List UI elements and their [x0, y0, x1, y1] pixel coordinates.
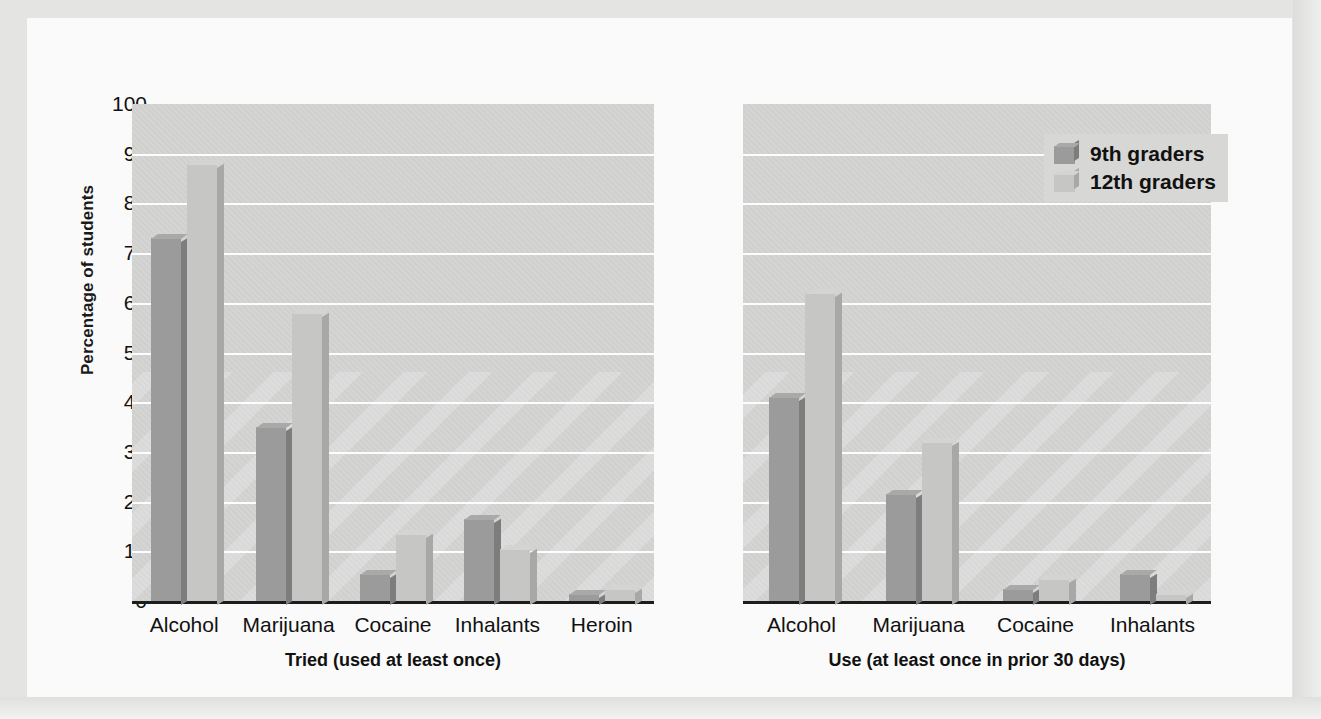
- bar-cocaine-12th: [1039, 579, 1069, 601]
- x-tick-alcohol: Alcohol: [743, 613, 860, 637]
- x-tick-marijuana: Marijuana: [860, 613, 977, 637]
- bar-marijuana-12th: [292, 313, 322, 601]
- bar-inhalants-12th: [1156, 594, 1186, 601]
- x-tick-cocaine: Cocaine: [341, 613, 445, 637]
- x-axis-line: [743, 601, 1211, 604]
- bar-inhalants-9th: [464, 519, 494, 601]
- legend-swatch-9th-icon: [1054, 143, 1079, 164]
- bar-marijuana-9th: [886, 494, 916, 601]
- bar-inhalants-12th: [500, 549, 530, 601]
- x-tick-inhalants: Inhalants: [445, 613, 549, 637]
- x-tick-heroin: Heroin: [550, 613, 654, 637]
- bar-marijuana-9th: [256, 427, 286, 601]
- legend-item-12th: 12th graders: [1054, 169, 1216, 194]
- bar-heroin-9th: [569, 594, 599, 601]
- bar-marijuana-12th: [922, 442, 952, 601]
- gridline-80: [743, 203, 1211, 205]
- bar-alcohol-12th: [187, 164, 217, 601]
- gridline-70: [743, 253, 1211, 255]
- legend-item-9th: 9th graders: [1054, 141, 1216, 166]
- bar-alcohol-9th: [151, 238, 181, 601]
- legend-label-9th: 9th graders: [1090, 142, 1204, 166]
- x-tick-cocaine: Cocaine: [977, 613, 1094, 637]
- panel-title: Use (at least once in prior 30 days): [743, 650, 1211, 671]
- chart-legend: 9th graders 12th graders: [1044, 134, 1228, 202]
- x-tick-alcohol: Alcohol: [132, 613, 236, 637]
- frame-shadow-right: [1293, 0, 1321, 719]
- bar-cocaine-9th: [1003, 589, 1033, 601]
- chart-panel-tried: AlcoholMarijuanaCocaineInhalantsHeroinTr…: [132, 104, 654, 681]
- bar-cocaine-9th: [360, 574, 390, 601]
- bar-inhalants-9th: [1120, 574, 1150, 601]
- figure-frame: Percentage of students 10090807060504030…: [0, 0, 1321, 719]
- legend-label-12th: 12th graders: [1090, 170, 1216, 194]
- bar-heroin-12th: [605, 589, 635, 601]
- bar-alcohol-9th: [769, 397, 799, 601]
- x-tick-inhalants: Inhalants: [1094, 613, 1211, 637]
- gridline-90: [132, 154, 654, 156]
- bar-alcohol-12th: [805, 293, 835, 601]
- frame-shadow-bottom: [0, 697, 1321, 719]
- panel-title: Tried (used at least once): [132, 650, 654, 671]
- x-tick-marijuana: Marijuana: [236, 613, 340, 637]
- figure-canvas: Percentage of students 10090807060504030…: [27, 18, 1292, 698]
- legend-swatch-12th-icon: [1054, 171, 1079, 192]
- bar-cocaine-12th: [396, 534, 426, 601]
